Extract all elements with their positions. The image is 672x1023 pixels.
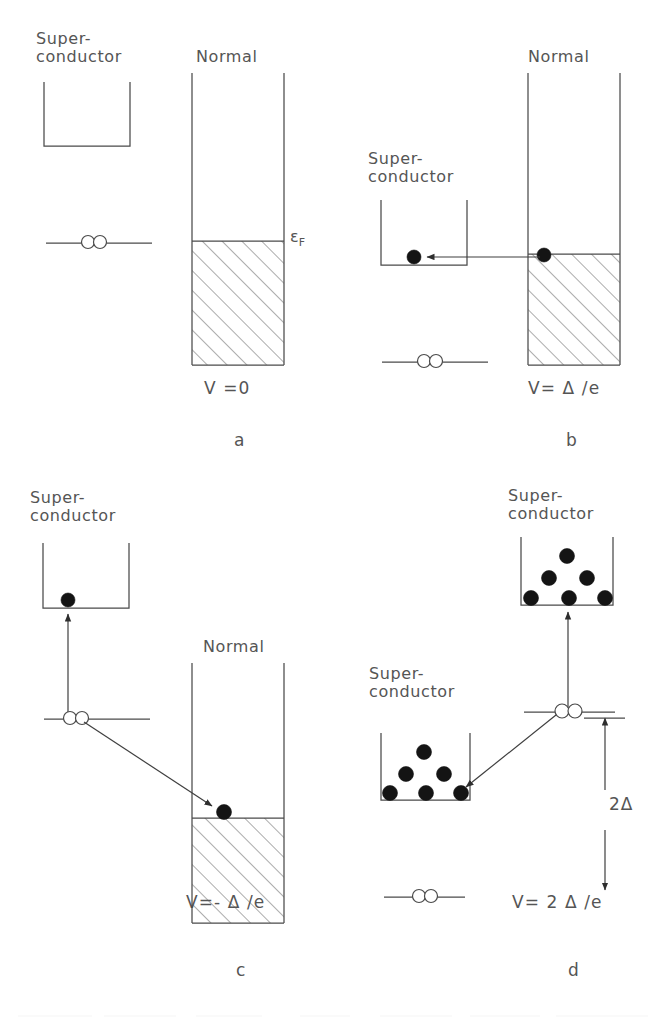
panel-b-group <box>381 73 620 368</box>
panel-d-group <box>381 537 625 903</box>
panel-a-cooper-circle-2 <box>94 236 107 249</box>
panel-b-filled-states <box>528 254 620 365</box>
panel-b-normal-electron <box>537 248 551 262</box>
panel-b-superconductor-well <box>381 200 467 265</box>
panel-d-lower-electron-1 <box>417 745 432 760</box>
panel-b-cooper-circle-1 <box>418 355 431 368</box>
panel-c-cooper-circle-1 <box>64 712 77 725</box>
panel-c-tunneling-arrow <box>84 722 212 806</box>
figure-canvas: Super-conductor Normal εF V =0 a Super-c… <box>0 0 672 1023</box>
panel-c-group <box>43 543 284 923</box>
panel-d-upper-electron-4 <box>524 591 539 606</box>
panel-d-upper-electron-5 <box>562 591 577 606</box>
panel-d-cooper-circle-2 <box>568 704 582 718</box>
panel-c-filled-states <box>192 818 284 923</box>
panel-a-superconductor-well <box>44 82 130 146</box>
panel-d-lower-electron-3 <box>437 767 452 782</box>
panel-b-superconductor-electron <box>407 250 421 264</box>
panel-c-superconductor-electron <box>61 593 75 607</box>
panel-d-tunneling-arrow <box>466 715 556 787</box>
panel-d-lower-electron-6 <box>454 786 469 801</box>
panel-d-lower-electron-5 <box>419 786 434 801</box>
panel-b-cooper-circle-2 <box>430 355 443 368</box>
panel-c-superconductor-well <box>43 543 129 608</box>
panel-a-filled-states <box>192 241 284 365</box>
panel-d-lower-cooper-circle-1 <box>413 890 426 903</box>
panel-d-lower-electron-4 <box>383 786 398 801</box>
diagram-drawing <box>0 0 672 1023</box>
panel-d-upper-electron-2 <box>542 571 557 586</box>
panel-c-normal-electron <box>217 805 232 820</box>
panel-a-group <box>44 73 284 365</box>
panel-d-upper-electron-3 <box>580 571 595 586</box>
panel-a-cooper-circle-1 <box>82 236 95 249</box>
panel-d-lower-cooper-circle-2 <box>425 890 438 903</box>
panel-d-cooper-circle-1 <box>555 704 569 718</box>
panel-d-upper-electron-6 <box>598 591 613 606</box>
panel-d-upper-electron-1 <box>560 549 575 564</box>
panel-c-cooper-circle-2 <box>76 712 89 725</box>
panel-d-lower-electron-2 <box>399 767 414 782</box>
